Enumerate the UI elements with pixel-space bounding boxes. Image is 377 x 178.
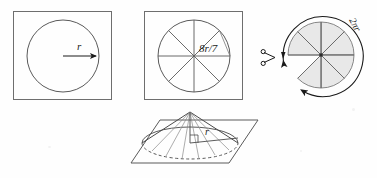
cone-radius-label: r <box>205 126 209 137</box>
circumference-label: 2πr <box>347 16 363 34</box>
sector-arc-label: 8r/7 <box>199 42 218 54</box>
sector-chord <box>220 31 231 57</box>
panel-sectors: 8r/7 <box>145 12 243 100</box>
cone-radius-segment <box>190 138 238 143</box>
cone-base-front-arc <box>142 143 238 159</box>
right-angle-mark <box>190 135 198 143</box>
sector-5 <box>298 55 321 88</box>
cone-interior-lines <box>152 112 229 159</box>
disc-center-dot <box>319 53 323 57</box>
radius-label: r <box>77 40 82 52</box>
square-frame <box>14 12 112 100</box>
panel-cone: r <box>131 112 258 163</box>
scissors-icon <box>261 50 275 66</box>
geometry-figure-sheet: r 8r/7 <box>0 0 377 178</box>
panel-cut-disc: 2πr <box>261 16 363 97</box>
panel-square-circle: r <box>14 12 112 100</box>
cut-direction-arrow-icon <box>281 52 286 59</box>
ground-plane <box>131 120 258 163</box>
figure-canvas: r 8r/7 <box>0 0 377 178</box>
